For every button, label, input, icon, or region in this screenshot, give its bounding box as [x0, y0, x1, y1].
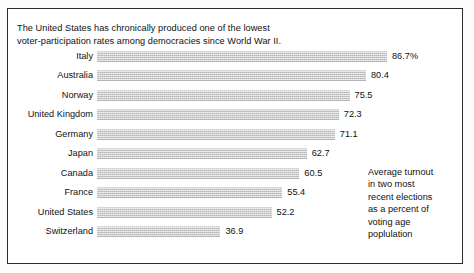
bar-category-label: Germany	[8, 128, 93, 141]
annotation-line-5: voting age	[368, 216, 464, 228]
bar	[97, 70, 366, 81]
annotation-line-2: in two most	[368, 178, 464, 190]
bar-category-label: Switzerland	[8, 225, 93, 238]
bar-row: Japan62.7	[8, 147, 464, 166]
chart-annotation: Average turnout in two most recent elect…	[368, 166, 464, 240]
headline-line-2: voter-participation rates among democrac…	[17, 35, 347, 48]
bar-category-label: Canada	[8, 167, 93, 180]
bar-row: Germany71.1	[8, 128, 464, 147]
bar	[97, 109, 339, 120]
bar-value-label: 86.7%	[392, 50, 418, 63]
bar-row: United Kingdom72.3	[8, 108, 464, 127]
bar	[97, 168, 299, 179]
bar-value-label: 60.5	[304, 167, 322, 180]
annotation-line-3: recent elections	[368, 191, 464, 203]
bar	[97, 187, 282, 198]
bar	[97, 51, 387, 62]
bar-value-label: 62.7	[312, 147, 330, 160]
annotation-line-1: Average turnout	[368, 166, 464, 178]
bar	[97, 226, 220, 237]
bar-row: Australia80.4	[8, 69, 464, 88]
bar-value-label: 80.4	[371, 69, 389, 82]
bar-value-label: 55.4	[287, 186, 305, 199]
bar-value-label: 75.5	[355, 89, 373, 102]
bar	[97, 90, 350, 101]
bar-category-label: Japan	[8, 147, 93, 160]
annotation-line-4: as a percent of	[368, 203, 464, 215]
bar-row: Norway75.5	[8, 89, 464, 108]
bar-value-label: 52.2	[277, 206, 295, 219]
headline-line-1: The United States has chronically produc…	[17, 22, 347, 35]
scanned-page: The United States has chronically produc…	[0, 0, 474, 273]
bar-category-label: Australia	[8, 69, 93, 82]
chart-frame: The United States has chronically produc…	[7, 8, 463, 264]
bar-value-label: 36.9	[225, 225, 243, 238]
bar	[97, 207, 272, 218]
bar-category-label: France	[8, 186, 93, 199]
annotation-line-6: poplulation	[368, 228, 464, 240]
bar	[97, 129, 335, 140]
bar-category-label: Italy	[8, 50, 93, 63]
bar	[97, 148, 307, 159]
bar-category-label: United States	[8, 206, 93, 219]
bar-value-label: 72.3	[344, 108, 362, 121]
bar-row: Italy86.7%	[8, 50, 464, 69]
chart-headline: The United States has chronically produc…	[17, 22, 347, 48]
bar-value-label: 71.1	[340, 128, 358, 141]
bar-category-label: Norway	[8, 89, 93, 102]
bar-category-label: United Kingdom	[8, 108, 93, 121]
